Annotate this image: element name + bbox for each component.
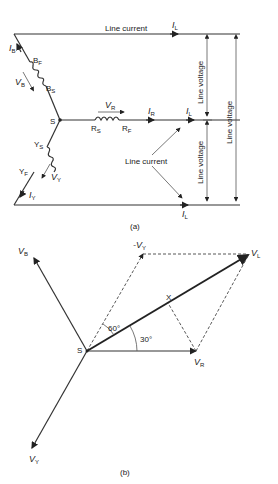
perpendicular-to-X — [168, 303, 196, 351]
IL-mid-label: IL — [186, 106, 193, 117]
angle-60-label: 60° — [108, 324, 120, 333]
VY-phasor-label: VY — [29, 454, 39, 465]
angle-30-arc — [130, 326, 137, 351]
line-voltage-label-3: Line voltage — [225, 100, 234, 144]
line-current-pointer-down — [152, 166, 182, 198]
YF-label: YF — [19, 167, 28, 177]
VR-phasor-label: VR — [194, 357, 205, 368]
phase-R-winding — [95, 117, 119, 120]
point-X-label: X — [166, 293, 172, 302]
phase-Y-winding — [47, 147, 56, 172]
caption-a: (a) — [130, 222, 140, 231]
phasor-diagram: S VB VY VR VL -VY 60° 30° X (b) — [18, 240, 261, 477]
line-voltage-label-2: Line voltage — [196, 140, 205, 184]
caption-b: (b) — [120, 468, 130, 477]
VL-phasor-label: VL — [251, 248, 261, 259]
IR-label: IR — [148, 106, 156, 117]
line-current-pointer-up — [152, 128, 180, 155]
line-current-label-mid: Line current — [125, 157, 168, 166]
VY-label: VY — [51, 172, 61, 183]
BS-label: BS — [46, 84, 55, 94]
IY-label: IY — [29, 190, 36, 201]
neg-VY-phasor-label: -VY — [133, 240, 146, 251]
VB-phasor-label: VB — [18, 246, 28, 257]
BF-label: BF — [33, 56, 42, 66]
line-current-label-top: Line current — [105, 24, 148, 33]
star-connection-figure: Line current Line current IL IR IL IL VR… — [0, 0, 278, 484]
RF-label: RF — [122, 124, 132, 134]
VL-phasor — [87, 255, 248, 351]
line-voltage-label-1: Line voltage — [196, 60, 205, 104]
star-point-label: S — [50, 117, 55, 126]
VB-label: VB — [15, 77, 25, 88]
VY-phasor — [32, 351, 87, 448]
VY-arrow — [42, 164, 50, 178]
RS-label: RS — [91, 124, 101, 134]
angle-30-label: 30° — [140, 335, 152, 344]
origin-S-label: S — [77, 346, 82, 355]
VB-phasor — [34, 258, 87, 351]
IL-bottom-label: IL — [182, 209, 189, 220]
VR-label: VR — [105, 100, 116, 111]
YS-label: YS — [34, 140, 43, 150]
star-circuit: Line current Line current IL IR IL IL VR… — [9, 20, 240, 231]
star-point-dot — [58, 118, 62, 122]
IB-label: IB — [9, 43, 16, 54]
phase-B-lead — [14, 34, 30, 62]
IL-top-label: IL — [172, 20, 179, 31]
